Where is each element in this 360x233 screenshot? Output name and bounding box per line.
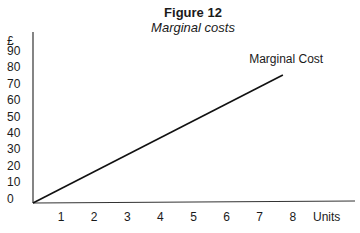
x-axis-label: Units [313, 210, 340, 224]
marginal-cost-annotation: Marginal Cost [249, 52, 324, 66]
x-tick-label: 5 [190, 210, 197, 224]
y-tick-label: 40 [7, 126, 21, 140]
x-axis [33, 201, 355, 203]
x-tick-label: 3 [124, 210, 131, 224]
x-tick-label: 6 [223, 210, 230, 224]
marginal-cost-line [33, 75, 283, 203]
y-tick-label: 60 [7, 93, 21, 107]
x-tick-label: 8 [289, 210, 296, 224]
y-tick-label: 80 [7, 60, 21, 74]
y-tick-label: 20 [7, 159, 21, 173]
y-tick-label: 30 [7, 142, 21, 156]
marginal-cost-chart: 0102030405060708090 12345678 £ Units Mar… [0, 0, 360, 233]
x-tick-label: 2 [91, 210, 98, 224]
y-tick-label: 70 [7, 77, 21, 91]
y-tick-label: 50 [7, 110, 21, 124]
y-axis-label: £ [7, 34, 14, 48]
x-axis-labels: 12345678 [58, 210, 297, 224]
y-axis-labels: 0102030405060708090 [7, 44, 21, 206]
y-tick-label: 10 [7, 175, 21, 189]
x-tick-label: 7 [256, 210, 263, 224]
x-tick-label: 1 [58, 210, 65, 224]
y-tick-label: 0 [7, 192, 14, 206]
x-tick-label: 4 [157, 210, 164, 224]
